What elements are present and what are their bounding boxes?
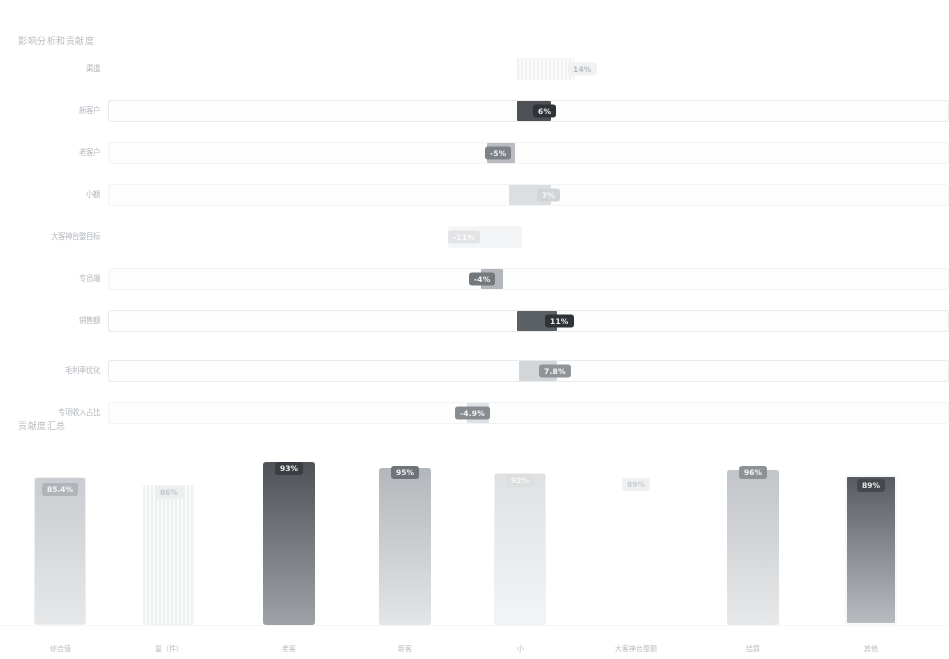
contribution-section-title: 贡献度汇总 (18, 419, 66, 432)
impact-row-value: 6% (533, 105, 556, 118)
impact-row-track: -11% (108, 226, 949, 248)
impact-row-label: 毛利率优化 (0, 354, 100, 388)
impact-row[interactable]: 新客户 6% (0, 94, 949, 128)
impact-row-track: 7.8% (108, 360, 949, 382)
impact-row-label: 大客神台整目标 (0, 220, 100, 254)
impact-row-label: 渠道 (0, 52, 100, 86)
column-bar (727, 470, 779, 625)
impact-row-label: 新客户 (0, 94, 100, 128)
column-value: 85.4% (42, 483, 78, 496)
impact-row-value: 7% (537, 189, 560, 202)
column-value: 93% (275, 462, 303, 475)
column-label: 小 (517, 643, 524, 653)
impact-row-track: 7% (108, 184, 949, 206)
column-bar (494, 473, 546, 625)
impact-row-track: 6% (108, 100, 949, 122)
column-value: 92% (506, 474, 534, 487)
column-label: 其他 (864, 643, 878, 653)
impact-row-value: -5% (485, 147, 511, 160)
impact-row-value: -4% (469, 273, 495, 286)
column-label: 综合值 (50, 643, 71, 653)
column-value: 89% (857, 479, 885, 492)
impact-row-label: 老客户 (0, 136, 100, 170)
impact-row-value: 7.8% (539, 365, 571, 378)
column-value: 96% (739, 466, 767, 479)
impact-row-value: 11% (545, 315, 574, 328)
impact-row-track: -4% (108, 268, 949, 290)
impact-row[interactable]: 销售额 11% (0, 304, 949, 338)
impact-bar-chart: 渠道 14% 新客户 6% 老客户 -5% 小额 (0, 52, 949, 417)
column-label: 量（件） (155, 643, 183, 653)
column-bar (263, 462, 315, 625)
impact-row-label: 专员端 (0, 262, 100, 296)
impact-row-track: -4.9% (108, 402, 949, 424)
impact-row[interactable]: 专员端 -4% (0, 262, 949, 296)
column-bar (379, 468, 431, 625)
column-label: 老客 (282, 643, 296, 653)
impact-row-bar (517, 58, 574, 80)
impact-row[interactable]: 渠道 14% (0, 52, 949, 86)
column-bar (34, 477, 86, 625)
impact-row-label: 小额 (0, 178, 100, 212)
impact-row-label: 销售额 (0, 304, 100, 338)
column-value: 89% (622, 478, 650, 491)
impact-row[interactable]: 老客户 -5% (0, 136, 949, 170)
impact-row-value: -4.9% (455, 407, 490, 420)
axis-line (0, 625, 949, 626)
dashboard-root: 影响分析和贡献度 渠道 14% 新客户 6% 老客户 -5% (0, 0, 949, 659)
column-value: 86% (155, 486, 183, 499)
column-value: 95% (391, 466, 419, 479)
impact-section-title: 影响分析和贡献度 (18, 34, 94, 47)
column-bar (143, 485, 195, 625)
column-label: 大客神台整额 (615, 643, 657, 653)
contribution-column-chart: 85.4% 综合值 86% 量（件） 93% 老客 95% 新客 92% 小 (0, 440, 949, 659)
impact-row[interactable]: 大客神台整目标 -11% (0, 220, 949, 254)
impact-row-track: 14% (108, 58, 949, 80)
column-bar (845, 475, 897, 625)
impact-row-track: 11% (108, 310, 949, 332)
impact-row[interactable]: 毛利率优化 7.8% (0, 354, 949, 388)
impact-row[interactable]: 小额 7% (0, 178, 949, 212)
impact-row-track: -5% (108, 142, 949, 164)
impact-row-value: 14% (568, 63, 597, 76)
column-label: 新客 (398, 643, 412, 653)
column-label: 结算 (746, 643, 760, 653)
impact-row-value: -11% (448, 231, 480, 244)
impact-row[interactable]: 专项收入占比 -4.9% (0, 396, 949, 430)
